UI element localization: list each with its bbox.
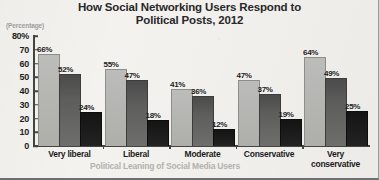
bar-moderate-series-2[interactable]: [192, 96, 214, 147]
bar-value-label-very-conservative-series-1: 64%: [303, 48, 318, 57]
bar-value-label-conservative-series-2: 37%: [258, 85, 273, 94]
x-axis-title: Political Leaning of Social Media Users: [0, 161, 330, 171]
plot-area: 66%52%24%55%47%18%41%36%12%47%37%19%64%4…: [34, 36, 370, 146]
bar-conservative-series-3[interactable]: [280, 119, 302, 146]
bar-very-liberal-series-2[interactable]: [59, 74, 81, 147]
y-tick-label-80: 80%: [0, 31, 29, 41]
bar-value-label-liberal-series-3: 18%: [146, 111, 161, 120]
bar-liberal-series-2[interactable]: [126, 80, 148, 146]
y-tick-label-10: 10: [0, 127, 29, 137]
bar-group-1: 55%47%18%: [105, 36, 168, 146]
bar-very-conservative-series-3[interactable]: [346, 111, 368, 146]
y-tick-label-0: 0: [0, 141, 29, 151]
bar-very-conservative-series-2[interactable]: [325, 78, 347, 146]
bar-value-label-moderate-series-2: 36%: [191, 87, 206, 96]
bar-value-label-conservative-series-3: 19%: [279, 110, 294, 119]
bar-value-label-liberal-series-2: 47%: [125, 71, 140, 80]
bar-liberal-series-3[interactable]: [147, 120, 169, 146]
bar-value-label-very-conservative-series-2: 49%: [324, 69, 339, 78]
y-tick-label-70: 70: [0, 45, 29, 55]
bar-group-0: 66%52%24%: [38, 36, 101, 146]
bar-moderate-series-3[interactable]: [213, 129, 235, 147]
bar-group-4: 64%49%25%: [304, 36, 367, 146]
bar-value-label-very-liberal-series-2: 52%: [58, 65, 73, 74]
bar-group-3: 47%37%19%: [238, 36, 301, 146]
chart-container: How Social Networking Users Respond to P…: [0, 0, 379, 180]
chart-title: How Social Networking Users Respond to P…: [0, 1, 379, 27]
bar-value-label-very-liberal-series-3: 24%: [79, 103, 94, 112]
bar-value-label-liberal-series-1: 55%: [104, 60, 119, 69]
y-tick-label-50: 50: [0, 72, 29, 82]
y-tick-label-20: 20: [0, 114, 29, 124]
bar-group-2: 41%36%12%: [171, 36, 234, 146]
category-label-line: Very: [294, 149, 377, 159]
y-tick-label-30: 30: [0, 100, 29, 110]
y-tick-label-60: 60: [0, 59, 29, 69]
chart-title-line-1: How Social Networking Users Respond to: [0, 1, 379, 14]
bar-value-label-very-conservative-series-3: 25%: [345, 102, 360, 111]
bar-moderate-series-1[interactable]: [171, 89, 193, 146]
chart-title-line-2: Political Posts, 2012: [0, 14, 379, 27]
bar-very-conservative-series-1[interactable]: [304, 57, 326, 146]
bar-conservative-series-1[interactable]: [238, 80, 260, 146]
bar-value-label-moderate-series-1: 41%: [170, 80, 185, 89]
bar-value-label-conservative-series-1: 47%: [237, 71, 252, 80]
y-tick-label-40: 40: [0, 86, 29, 96]
bar-conservative-series-2[interactable]: [259, 94, 281, 146]
bar-value-label-moderate-series-3: 12%: [212, 120, 227, 129]
bar-very-liberal-series-3[interactable]: [80, 112, 102, 146]
y-axis-unit-caption: (Percentage): [6, 22, 44, 29]
bar-value-label-very-liberal-series-1: 66%: [37, 45, 52, 54]
bar-liberal-series-1[interactable]: [105, 69, 127, 146]
bar-very-liberal-series-1[interactable]: [38, 54, 60, 146]
